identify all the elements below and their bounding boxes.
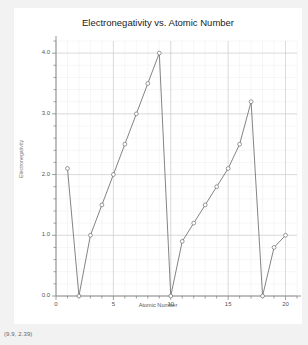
major-gridlines bbox=[56, 41, 297, 296]
plot-area[interactable] bbox=[14, 8, 302, 324]
minor-gridlines bbox=[56, 41, 297, 296]
x-tick-label: 15 bbox=[218, 301, 238, 307]
y-tick-label: 4.0 bbox=[30, 49, 50, 55]
y-tick-label: 3.0 bbox=[30, 110, 50, 116]
y-tick-label: 0.0 bbox=[30, 292, 50, 298]
coordinate-readout: (9.9, 2.39) bbox=[4, 331, 32, 337]
x-tick-label: 5 bbox=[103, 301, 123, 307]
x-tick-label: 0 bbox=[46, 301, 66, 307]
chart-screenshot: Electronegativity vs. Atomic Number Elec… bbox=[0, 0, 308, 345]
axis-lines bbox=[56, 36, 301, 296]
x-tick-label: 10 bbox=[161, 301, 181, 307]
chart-card: Electronegativity vs. Atomic Number Elec… bbox=[14, 8, 302, 324]
y-tick-label: 2.0 bbox=[30, 171, 50, 177]
x-tick-label: 20 bbox=[276, 301, 296, 307]
y-tick-label: 1.0 bbox=[30, 231, 50, 237]
